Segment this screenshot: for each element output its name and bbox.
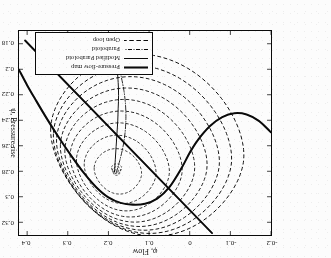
legend-item-paraboloid: Paraboloid <box>39 45 149 54</box>
legend-label-open-loop: Open loop <box>93 36 120 45</box>
y-tick-label: 0.26 <box>2 142 14 150</box>
legend-swatch-dash-dot <box>123 45 149 54</box>
open-loop-cycle <box>94 149 141 194</box>
open-loop-cycle <box>84 135 156 203</box>
legend-swatch-solid-thick <box>123 63 149 72</box>
legend-label-modified-paraboloid: Modified Paraboloid <box>66 54 120 63</box>
legend-label-pressure-flow-map: Pressure-flow map <box>71 63 120 72</box>
y-tick-label: 0.3 <box>5 193 14 201</box>
open-loop-cycle <box>51 54 244 235</box>
equilibrium-spiral <box>112 164 122 175</box>
x-tick-label: 0.1 <box>145 239 154 247</box>
legend-item-modified-paraboloid: Modified Paraboloid <box>39 54 149 63</box>
open-loop-cycles <box>51 54 244 235</box>
legend-item-pressure-flow-map: Pressure-flow map <box>39 63 149 72</box>
x-tick-label: 0.3 <box>63 239 72 247</box>
x-tick-label: 0.4 <box>22 239 31 247</box>
legend-label-paraboloid: Paraboloid <box>92 45 120 54</box>
legend-swatch-dashed <box>123 36 149 45</box>
modified-paraboloid-curve <box>115 71 119 172</box>
y-tick-label: 0.22 <box>2 90 14 98</box>
y-tick-label: 0.32 <box>2 219 14 227</box>
x-tick-label: -0.1 <box>226 239 237 247</box>
rotated-figure: φ, Flow ψ, Pressure rise -0.2-0.100.10.2… <box>0 0 331 258</box>
x-tick-label: 0.2 <box>104 239 113 247</box>
legend: Pressure-flow map Modified Paraboloid Pa… <box>35 32 153 75</box>
x-tick-label: 0 <box>188 239 192 247</box>
y-tick-label: 0.2 <box>5 65 14 73</box>
legend-item-open-loop: Open loop <box>39 36 149 45</box>
y-tick-label: 0.28 <box>2 168 14 176</box>
open-loop-cycle <box>57 77 220 231</box>
legend-swatch-solid-thin <box>123 54 149 63</box>
plot-area: Pressure-flow map Modified Paraboloid Pa… <box>18 30 272 236</box>
x-tick-label: -0.2 <box>266 239 277 247</box>
x-axis-label: φ, Flow <box>132 247 157 256</box>
y-tick-label: 0.24 <box>2 116 14 124</box>
y-tick-label: 0.18 <box>2 39 14 47</box>
